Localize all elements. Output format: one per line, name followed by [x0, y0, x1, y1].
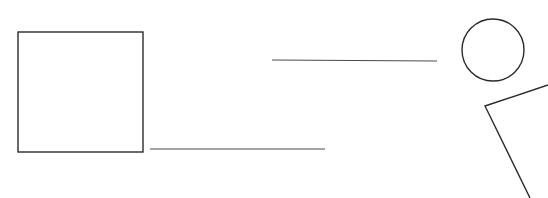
circle-outline: [462, 19, 524, 81]
upper-horizontal-line: [272, 60, 437, 61]
drawing-surface: [0, 0, 548, 198]
v-chevron: [485, 85, 548, 198]
drawing-canvas: Black-and-white line sketch on a plain w…: [0, 0, 548, 198]
square-outline: [18, 32, 143, 152]
